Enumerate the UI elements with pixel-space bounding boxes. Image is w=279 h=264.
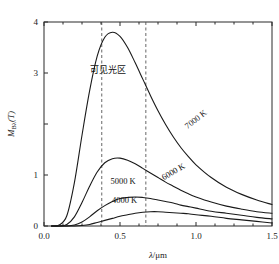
spectral-exitance-chart: 0.00.51.01.50134可见光区7000 K6000 K5000 K40… [0, 0, 279, 264]
x-axis-title: λ/μm [148, 250, 167, 260]
y-tick-label: 1 [34, 170, 39, 180]
plot-frame [44, 22, 272, 226]
y-tick-label: 4 [34, 17, 39, 27]
curve-label-6000k: 6000 K [160, 160, 188, 182]
x-tick-label: 1.5 [266, 231, 278, 241]
y-tick-label: 0 [34, 221, 39, 231]
plot-area: 0.00.51.01.50134可见光区7000 K6000 K5000 K40… [0, 0, 279, 264]
curve-label-5000k: 5000 K [110, 176, 136, 186]
x-tick-label: 0.0 [38, 231, 50, 241]
x-tick-label: 1.0 [190, 231, 202, 241]
y-tick-label: 3 [34, 68, 39, 78]
visible-region-label: 可见光区 [90, 64, 126, 75]
x-tick-label: 0.5 [114, 231, 126, 241]
curve-label-7000k: 7000 K [183, 107, 210, 131]
curve-label-4000k: 4000 K [112, 195, 138, 205]
curve-6000k [52, 158, 272, 226]
y-axis-title: MBλ(T) [6, 111, 17, 138]
curve-4000k [52, 212, 272, 226]
